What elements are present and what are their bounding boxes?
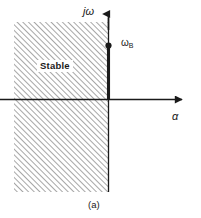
stable-region-label: Stable: [37, 60, 73, 72]
omega-b-symbol: ω: [121, 37, 129, 48]
stability-region-figure: jω ωB α Stable (a): [0, 0, 201, 218]
figure-caption: (a): [88, 200, 100, 210]
alpha-axis-label: α: [172, 111, 178, 122]
stable-region-hatch: [14, 22, 108, 192]
jomega-axis-label: jω: [83, 6, 94, 17]
omega-b-point-marker: [105, 42, 111, 48]
omega-b-label: ωB: [121, 38, 133, 49]
figure-canvas: [0, 0, 201, 218]
omega-b-subscript: B: [129, 42, 134, 49]
